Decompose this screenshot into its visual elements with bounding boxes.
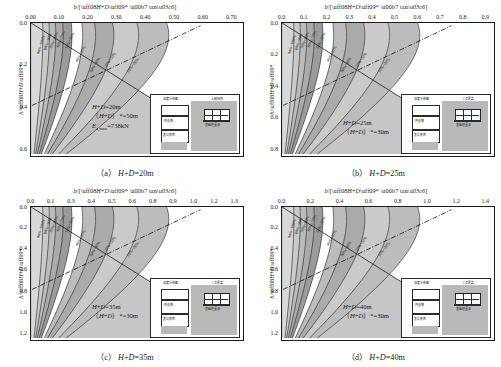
x-tick-label: 0.1: [47, 198, 55, 204]
inset-label: 深度分布图: [163, 97, 178, 101]
panel-c-x-axis-label: b/[\uff08H+D\uff09* \u00b7 tan\u03c6]: [0, 187, 250, 194]
y-tick-label: 1.2: [20, 330, 28, 336]
x-tick-label: 0.6: [128, 198, 136, 204]
x-tick-label: 0.9: [482, 14, 490, 20]
panel-a-inset-diagram: 深度分布图上部结构内支撐基坑底面基础埋置深: [150, 94, 240, 154]
panel-a-y-axis-label: h/\uff08H+D\uff09*: [17, 60, 24, 120]
x-tick-label: 0.30: [111, 14, 122, 20]
inset-part: [161, 105, 189, 116]
inset-part: [463, 109, 464, 120]
x-tick-label: 1.2: [210, 198, 218, 204]
inset-part: [455, 115, 479, 116]
panel-d-inset-diagram: 深度分布图二次覆盖内支撐基坑底面基础埋置深: [401, 278, 491, 338]
inset-label: 基础埋置深: [456, 307, 471, 311]
x-tick-label: 0.50: [169, 14, 180, 20]
x-tick-label: 0.3: [345, 14, 353, 20]
panel-c-inset-diagram: 深度分布图二次覆盖内支撐基坑底面基础埋置深: [150, 278, 240, 338]
x-tick-label: 0.60: [197, 14, 208, 20]
inset-part: [212, 293, 213, 304]
y-tick-label: 0.6: [20, 146, 28, 152]
inset-label: 内支撐: [164, 119, 173, 123]
y-tick-label: 0.0: [271, 20, 279, 26]
inset-label: 深度分布图: [414, 97, 429, 101]
x-tick-label: 0.0: [278, 14, 286, 20]
x-tick-label: 0.6: [414, 14, 422, 20]
inset-label: 深度分布图: [163, 281, 178, 285]
inset-part: [471, 109, 472, 120]
x-tick-label: 1.2: [452, 198, 460, 204]
x-tick-label: 0.7: [436, 14, 444, 20]
inset-label: 基坑底面: [414, 317, 426, 321]
panel-b: b/[\uff08H+D\uff09* \u00b7 tan\u03c6] 0.…: [251, 0, 501, 184]
x-tick-label: 0.5: [391, 14, 399, 20]
inset-label: 基坑底面: [414, 133, 426, 137]
panel-caption-text: （a） H+D=20m: [0, 166, 250, 178]
inset-label: 二次覆盖: [211, 281, 223, 285]
panel-parameter-text: H+D=40m: [343, 302, 389, 312]
inset-part: [455, 299, 479, 300]
inset-label: 二次覆盖: [462, 97, 474, 101]
inset-label: 基础埋置深: [205, 123, 220, 127]
panel-parameter-text: （H+D）*=50m: [92, 111, 138, 121]
inset-label: 基础埋置深: [205, 307, 220, 311]
y-tick-label: 1.0: [20, 309, 28, 315]
panel-a-annotations: H+D=20m（H+D）*=50mEa,max=738kN: [92, 102, 138, 133]
panel-d: b/[\uff08H+D\uff09* \u00b7 tan\u03c6] 0.…: [251, 184, 501, 367]
x-tick-label: 0.6: [365, 198, 373, 204]
panel-b-x-axis-label: b/[\uff08H+D\uff09* \u00b7 tan\u03c6]: [251, 3, 501, 10]
panel-c: b/[\uff08H+D\uff09* \u00b7 tan\u03c6] 0.…: [0, 184, 250, 367]
inset-label: 深度分布图: [414, 281, 429, 285]
x-tick-label: 0.2: [306, 198, 314, 204]
inset-part: [412, 289, 440, 300]
inset-label: 基坑底面: [163, 133, 175, 137]
inset-part: [463, 293, 464, 304]
x-tick-label: 0.1: [300, 14, 308, 20]
x-tick-label: 1.4: [482, 198, 490, 204]
inset-label: 基坑底面: [163, 317, 175, 321]
y-tick-label: 1.0: [271, 309, 279, 315]
panel-c-annotations: H+D=35m（H+D）*=30m: [92, 302, 138, 321]
y-tick-label: 0.2: [271, 224, 279, 230]
x-tick-label: 0.3: [67, 198, 75, 204]
panel-parameter-text: Ea,max=738kN: [92, 121, 138, 133]
inset-label: 内支撐: [164, 303, 173, 307]
x-tick-label: 0.8: [459, 14, 467, 20]
x-tick-label: 0.0: [278, 198, 286, 204]
inset-label: 二次覆盖: [462, 281, 474, 285]
x-tick-label: 0.40: [140, 14, 151, 20]
panel-parameter-text: （H+D）*=30m: [92, 311, 138, 321]
y-tick-label: 1.2: [271, 330, 279, 336]
inset-part: [220, 109, 221, 120]
inset-part: [412, 105, 440, 116]
y-tick-label: 0.0: [271, 204, 279, 210]
x-tick-label: 0.5: [108, 198, 116, 204]
x-tick-label: 1.3: [230, 198, 238, 204]
panel-b-inset-diagram: 深度分布图二次覆盖内支撐基坑底面基础埋置深: [401, 94, 491, 154]
x-tick-label: 0.9: [169, 198, 177, 204]
inset-part: [161, 142, 187, 150]
inset-label: 内支撐: [415, 119, 424, 123]
x-tick-label: 0.70: [226, 14, 237, 20]
panel-caption-text: （d） H+D=40m: [251, 350, 501, 362]
x-tick-label: 0.4: [368, 14, 376, 20]
y-tick-label: 0.2: [271, 51, 279, 57]
x-tick-label: 1.0: [423, 198, 431, 204]
inset-label: 内支撐: [415, 303, 424, 307]
panel-d-x-axis-label: b/[\uff08H+D\uff09* \u00b7 tan\u03c6]: [251, 187, 501, 194]
inset-part: [412, 142, 438, 150]
panel-parameter-text: （H+D）*=30m: [343, 127, 389, 137]
x-tick-label: 1.0: [190, 198, 198, 204]
panel-parameter-text: H+D=20m: [92, 102, 138, 112]
panel-a: b/[\uff08H+D\uff09* \u00b7 tan\u03c6] 0.…: [0, 0, 250, 184]
inset-part: [412, 326, 438, 334]
panel-caption-text: （c） H+D=35m: [0, 350, 250, 362]
y-tick-label: 0.0: [20, 20, 28, 26]
inset-part: [161, 326, 187, 334]
panel-a-x-axis-label: b/[\uff08H+D\uff09* \u00b7 tan\u03c6]: [0, 3, 250, 10]
x-tick-label: 0.0: [27, 198, 35, 204]
panel-parameter-text: H+D=35m: [92, 302, 138, 312]
inset-label: 基础埋置深: [456, 123, 471, 127]
y-tick-label: 0.2: [20, 224, 28, 230]
figure-root: b/[\uff08H+D\uff09* \u00b7 tan\u03c6] 0.…: [0, 0, 501, 367]
inset-part: [161, 289, 189, 300]
